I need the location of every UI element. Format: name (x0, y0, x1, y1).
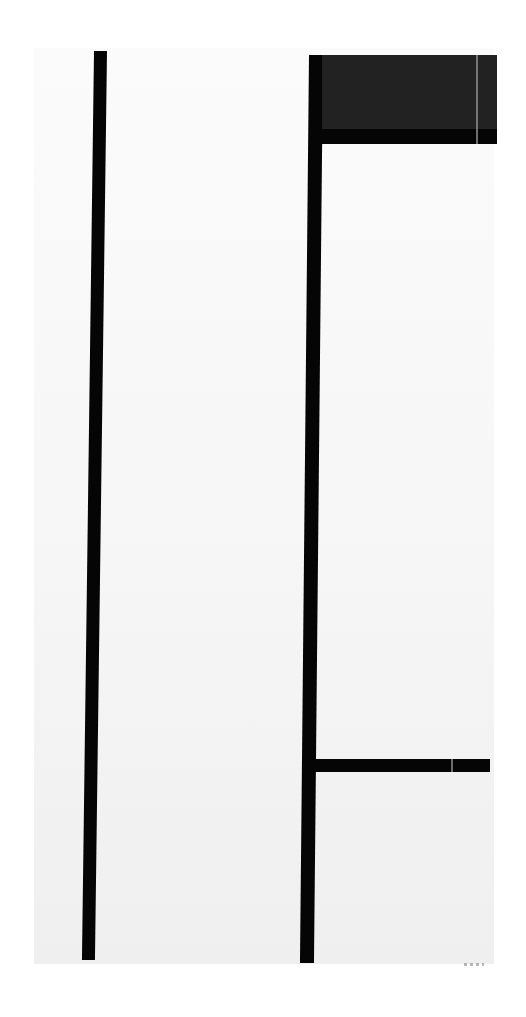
lower-horizontal-line (312, 759, 490, 772)
scan-scratch (476, 55, 478, 144)
scan-artifact-mark (464, 963, 484, 966)
scan-scratch (451, 759, 453, 772)
dark-rectangle-top-right (322, 55, 497, 130)
upper-horizontal-line (318, 129, 497, 144)
